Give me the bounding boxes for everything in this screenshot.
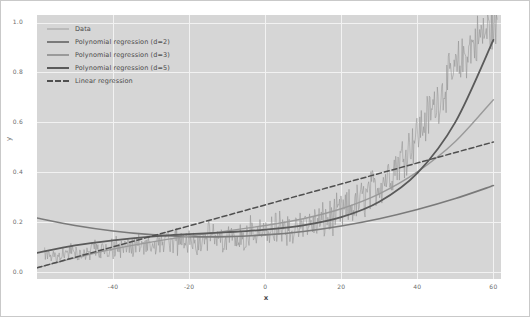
x-tick-label: 0 [245, 283, 285, 290]
y-tick-label: 1.0 [0, 18, 23, 25]
chart-legend: DataPolynomial regression (d=2)Polynomia… [43, 20, 174, 89]
legend-swatch-icon [47, 50, 69, 60]
legend-item-label: Data [75, 25, 91, 33]
y-tick-label: 0.4 [0, 168, 23, 175]
x-tick-label: -40 [93, 283, 133, 290]
x-tick-label: 20 [321, 283, 361, 290]
y-tick-label: 0.6 [0, 118, 23, 125]
legend-item[interactable]: Linear regression [47, 74, 170, 87]
regression-curve [37, 142, 493, 268]
x-tick-label: -20 [169, 283, 209, 290]
y-tick-label: 0.2 [0, 218, 23, 225]
legend-swatch-icon [47, 76, 69, 86]
legend-item[interactable]: Polynomial regression (d=5) [47, 61, 170, 74]
x-axis-label: x [1, 294, 530, 302]
legend-swatch-icon [47, 24, 69, 34]
legend-item[interactable]: Polynomial regression (d=2) [47, 35, 170, 48]
regression-curve [37, 100, 493, 268]
legend-item-label: Linear regression [75, 77, 133, 85]
chart-figure: DataPolynomial regression (d=2)Polynomia… [0, 0, 530, 317]
y-axis-label: y [5, 137, 13, 141]
plot-area: DataPolynomial regression (d=2)Polynomia… [37, 15, 501, 279]
y-tick-label: 0.0 [0, 268, 23, 275]
legend-item-label: Polynomial regression (d=2) [75, 38, 170, 46]
y-tick-label: 0.8 [0, 68, 23, 75]
legend-item[interactable]: Polynomial regression (d=3) [47, 48, 170, 61]
legend-item[interactable]: Data [47, 22, 170, 35]
legend-swatch-icon [47, 37, 69, 47]
legend-item-label: Polynomial regression (d=3) [75, 51, 170, 59]
x-tick-label: 60 [473, 283, 513, 290]
legend-swatch-icon [47, 63, 69, 73]
x-tick-label: 40 [397, 283, 437, 290]
legend-item-label: Polynomial regression (d=5) [75, 64, 170, 72]
